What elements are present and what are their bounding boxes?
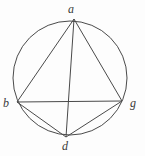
vertex-label-g: g [130, 97, 136, 109]
vertex-label-b: b [3, 97, 9, 109]
chord-a-g [74, 19, 122, 101]
vertex-label-a: a [68, 3, 74, 15]
geometry-canvas [0, 0, 145, 156]
chord-b-g [17, 101, 122, 102]
chord-b-d [17, 102, 66, 137]
vertex-label-d: d [62, 140, 68, 152]
chord-a-b [17, 19, 74, 102]
chord-a-d [66, 19, 74, 137]
chord-g-d [66, 101, 122, 137]
geometry-figure: a b g d [0, 0, 145, 156]
